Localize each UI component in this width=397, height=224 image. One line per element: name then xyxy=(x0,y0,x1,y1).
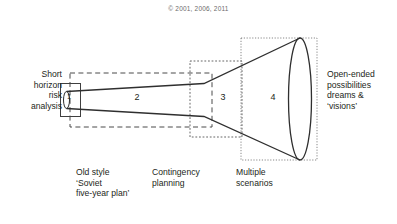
left-axis-label: Short horizon risk analysis xyxy=(6,69,62,111)
cone-lower-edge xyxy=(67,109,301,161)
right-axis-label: Open-ended possibilities dreams & ‘visio… xyxy=(327,69,397,111)
cone-mouth-ellipse xyxy=(289,38,312,160)
cone-upper-edge xyxy=(67,38,301,92)
zone-3-number: 3 xyxy=(216,92,230,102)
futures-cone-diagram: © 2001, 2006, 2011 1 2 3 4 Short horizon… xyxy=(0,0,397,224)
diagram-canvas xyxy=(0,0,397,224)
zone-4-number: 4 xyxy=(266,92,280,102)
zone-1-number: 1 xyxy=(62,92,76,101)
zone-4-caption: Multiple scenarios xyxy=(236,167,308,188)
zone-3-caption: Contingency planning xyxy=(152,167,226,188)
zone-2-caption: Old style ‘Soviet five-year plan’ xyxy=(76,167,154,199)
zone-2-number: 2 xyxy=(130,92,144,102)
